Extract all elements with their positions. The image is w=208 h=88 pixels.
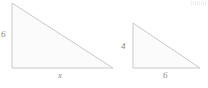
triangles-svg	[0, 0, 208, 88]
large-triangle-vertical-label: 6	[1, 30, 6, 39]
large-triangle-horizontal-label: x	[58, 71, 62, 80]
small-triangle-horizontal-label: 6	[163, 71, 168, 80]
small-triangle	[133, 23, 200, 68]
geometry-figure: 6 x 4 6	[0, 0, 208, 88]
small-triangle-vertical-label: 4	[121, 42, 126, 51]
large-triangle	[12, 3, 113, 68]
scan-artifact	[191, 1, 207, 5]
